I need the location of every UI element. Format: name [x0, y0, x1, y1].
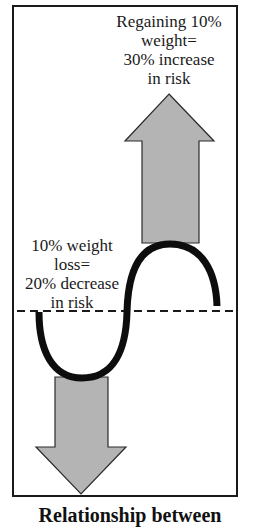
increase-label-line-3: 30% increase [110, 50, 228, 69]
down-arrow-icon [36, 377, 126, 494]
decrease-label-line-1: 10% weight [18, 236, 126, 255]
up-arrow-icon [125, 94, 214, 243]
decrease-label-line-2: loss= [18, 255, 126, 274]
increase-label-line-1: Regaining 10% [110, 12, 228, 31]
figure-caption: Relationship between [0, 503, 260, 527]
decrease-risk-label: 10% weight loss= 20% decrease in risk [18, 236, 126, 312]
decrease-label-line-3: 20% decrease [18, 274, 126, 293]
decrease-label-line-4: in risk [18, 293, 126, 312]
increase-risk-label: Regaining 10% weight= 30% increase in ri… [110, 12, 228, 88]
increase-label-line-2: weight= [110, 31, 228, 50]
increase-label-line-4: in risk [110, 69, 228, 88]
